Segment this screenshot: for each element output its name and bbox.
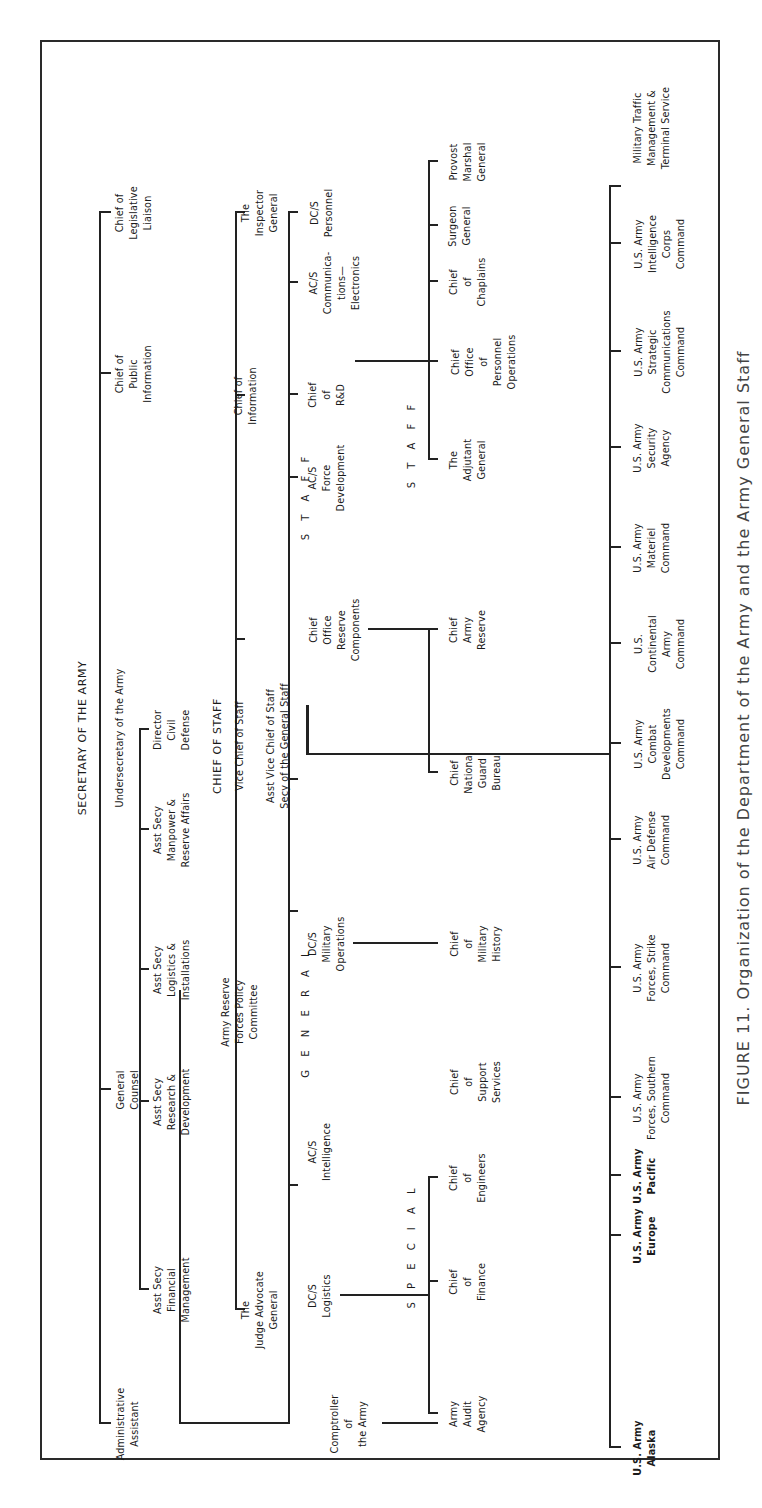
- org-node-usa-air-defense: U.S. Army Air Defense Command: [631, 811, 673, 869]
- connector-line: [288, 910, 298, 912]
- secretary-staff-bus-line: [99, 211, 101, 1424]
- connector-line: [609, 1234, 621, 1236]
- connector-line: [139, 728, 149, 730]
- org-node-usa-pacific: U.S. Army Pacific: [631, 1148, 659, 1204]
- org-node-chief-of-chaplains: Chief of Chaplains: [447, 258, 489, 307]
- dcs-personnel-link-line: [355, 360, 430, 362]
- org-node-us-continental-army: U.S. Continental Army Command: [632, 615, 688, 673]
- org-node-usa-forces-southern: U.S. Army Forces, Southern Command: [631, 1056, 673, 1140]
- connector-line: [609, 966, 621, 968]
- secretary-to-general-staff-line: [179, 990, 181, 1424]
- connector-line: [609, 185, 621, 187]
- connector-line: [609, 1096, 621, 1098]
- org-node-usa-intelligence-corps: U.S. Army Intelligence Corps Command: [632, 215, 688, 273]
- org-node-chief-office-reserve-components: Chief Office Reserve Components: [307, 599, 363, 662]
- connector-line: [609, 742, 621, 744]
- reserve-components-link-line: [368, 628, 428, 630]
- org-node-administrative-assistant: Administrative Assistant: [114, 1388, 142, 1461]
- connector-line: [609, 838, 621, 840]
- org-node-acs-intelligence: AC/S Intelligence: [306, 1123, 334, 1181]
- figure-caption: FIGURE 11. Organization of the Departmen…: [732, 351, 755, 1106]
- org-node-dcs-military-operations: DC/S Military Operations: [306, 917, 348, 972]
- org-node-chief-office-personnel-operations: Chief Office of Personnel Operations: [449, 335, 519, 390]
- org-chart-rotated: SECRETARY OF THE ARMYUndersecretary of t…: [0, 0, 762, 1508]
- connector-line: [99, 372, 111, 374]
- reserve-bus-line: [428, 628, 430, 773]
- comptroller-link-line: [382, 1422, 430, 1424]
- org-node-asst-secy-rd: Asst Secy Research & Development: [151, 1069, 193, 1136]
- org-node-chief-of-staff: CHIEF OF STAFF: [210, 698, 226, 794]
- connector-line: [428, 1176, 438, 1178]
- org-node-usa-alaska: U.S. Army Alaska: [631, 1420, 659, 1476]
- org-node-acs-communications-electronics: AC/S Communica- tions— Electronics: [307, 252, 363, 315]
- org-node-dcs-logistics: DC/S Logistics: [306, 1274, 334, 1317]
- connector-line: [428, 628, 438, 630]
- connector-line: [609, 546, 621, 548]
- commands-bus-line: [609, 185, 611, 1448]
- connector-line: [139, 828, 149, 830]
- org-node-director-civil-defense: Director Civil Defense: [151, 710, 193, 751]
- comptroller-link-h-line: [179, 1422, 289, 1424]
- org-node-chief-of-information: Chief of Information: [232, 367, 260, 425]
- org-node-general-counsel: General Counsel: [114, 1070, 142, 1110]
- connector-line: [139, 1288, 149, 1290]
- connector-line: [609, 1446, 621, 1448]
- org-node-asst-secy-li: Asst Secy Logistics & Installations: [151, 940, 193, 1001]
- connector-line: [99, 211, 111, 213]
- org-node-chief-support-services: Chief of Support Services: [448, 1061, 504, 1103]
- connector-line: [428, 771, 438, 773]
- connector-line: [235, 638, 245, 640]
- connector-line: [428, 160, 430, 460]
- org-node-usa-forces-strike: U.S. Army Forces, Strike Command: [631, 934, 673, 1001]
- org-node-surgeon-general: Surgeon General: [446, 205, 474, 246]
- org-node-usa-europe: U.S. Army Europe: [631, 1208, 659, 1264]
- connector-line: [288, 476, 298, 478]
- org-node-chief-legislative-liaison: Chief of Legislative Liaison: [113, 186, 155, 240]
- connector-line: [139, 968, 149, 970]
- org-node-adjutant-general: The Adjutant General: [447, 439, 489, 481]
- org-node-vice-chief: Vice Chief of Staff: [233, 701, 247, 791]
- org-node-chief-military-history: Chief of Military History: [448, 925, 504, 962]
- connector-line: [288, 1412, 290, 1424]
- connector-line: [609, 350, 621, 352]
- mil-ops-link-line: [353, 942, 428, 944]
- connector-line: [306, 705, 309, 755]
- org-node-army-reserve-forces-policy: Army Reserve Forces Policy Committee: [219, 977, 261, 1046]
- org-node-staff-label-2: S T A F F: [405, 400, 420, 489]
- connector-line: [428, 1422, 438, 1424]
- org-node-asst-vice-chief: Asst Vice Chief of Staff Secy of the Gen…: [264, 683, 292, 808]
- org-node-judge-advocate-general: The Judge Advocate General: [239, 1271, 281, 1349]
- org-node-chief-of-finance: Chief of Finance: [447, 1263, 489, 1301]
- connector-line: [609, 1174, 621, 1176]
- connector-line: [288, 211, 298, 213]
- org-node-chief-national-guard-bureau: Chief National Guard Bureau: [448, 752, 504, 794]
- special-staff-bus-line: [428, 1177, 430, 1414]
- org-node-military-traffic-management: Military Traffic Management & Terminal S…: [631, 87, 673, 169]
- connector-line: [99, 1088, 111, 1090]
- org-node-army-audit-agency: Army Audit Agency: [447, 1396, 489, 1433]
- connector-line: [609, 642, 621, 644]
- org-node-inspector-general: The Inspector General: [239, 190, 281, 237]
- connector-line: [609, 242, 621, 244]
- org-node-chief-public-information: Chief of Public Information: [113, 345, 155, 403]
- org-node-undersecretary: Undersecretary of the Army: [113, 669, 127, 808]
- org-node-secretary: SECRETARY OF THE ARMY: [75, 661, 91, 816]
- connector-line: [428, 1280, 438, 1282]
- connector-line: [609, 446, 621, 448]
- org-node-chief-rd: Chief of R&D: [306, 382, 348, 408]
- chart-frame: [40, 40, 720, 1460]
- connector-line: [99, 1422, 111, 1424]
- asst-secy-bus-line: [139, 728, 141, 1290]
- connector-line: [288, 393, 298, 395]
- org-node-usa-security-agency: U.S. Army Security Agency: [631, 423, 673, 472]
- connector-line: [428, 1412, 438, 1414]
- org-node-asst-secy-mra: Asst Secy Manpower & Reserve Affairs: [151, 792, 193, 867]
- org-node-asst-secy-fm: Asst Secy Financial Management: [151, 1257, 193, 1322]
- connector-line: [428, 942, 438, 944]
- org-node-usa-materiel: U.S. Army Materiel Command: [631, 523, 673, 574]
- org-node-chief-of-engineers: Chief of Engineers: [447, 1153, 489, 1203]
- org-node-usa-combat-developments: U.S. Army Combat Developments Command: [632, 708, 688, 780]
- org-node-comptroller: Comptroller of the Army: [328, 1395, 370, 1454]
- org-node-special-label: S P E C I A L: [405, 1183, 420, 1308]
- org-node-usa-strategic-communications: U.S. Army Strategic Communications Comma…: [632, 310, 688, 393]
